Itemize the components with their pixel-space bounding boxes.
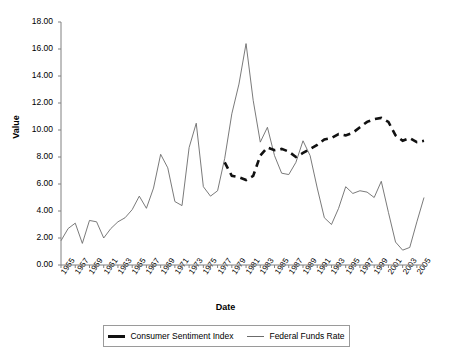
legend-label-federal-funds-rate: Federal Funds Rate xyxy=(269,331,344,341)
chart-legend: Consumer Sentiment Index Federal Funds R… xyxy=(103,325,350,347)
legend-item-federal-funds-rate: Federal Funds Rate xyxy=(247,331,344,341)
plot-area xyxy=(0,0,451,360)
series-line-federal-funds-rate xyxy=(61,44,424,251)
legend-swatch-dashed-icon xyxy=(108,335,125,338)
chart-figure: Value Date 0.002.004.006.008.0010.0012.0… xyxy=(0,0,451,360)
legend-swatch-solid-icon xyxy=(247,336,264,337)
series-line-consumer-sentiment-index xyxy=(225,118,424,180)
legend-item-consumer-sentiment-index: Consumer Sentiment Index xyxy=(108,331,233,341)
legend-label-consumer-sentiment-index: Consumer Sentiment Index xyxy=(130,331,233,341)
